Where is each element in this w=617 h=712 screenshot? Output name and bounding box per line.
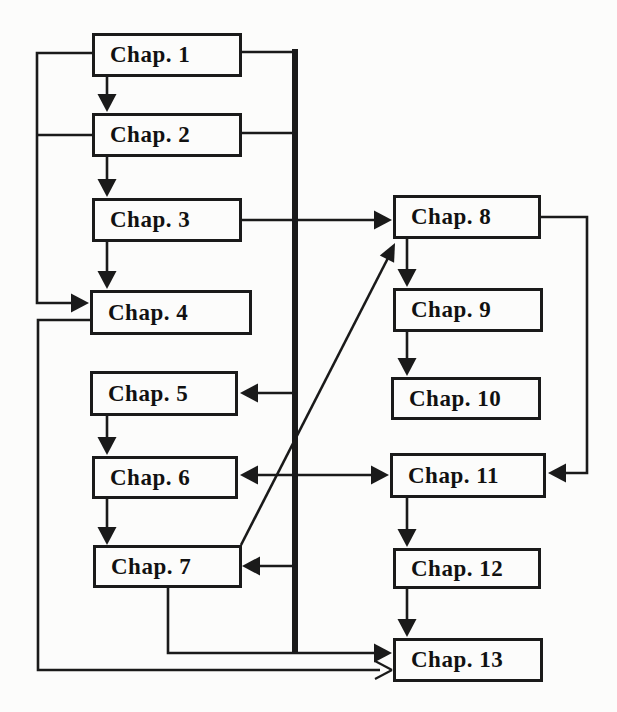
node-chap-10-label: Chap. 10 [409, 386, 501, 412]
node-chap-13: Chap. 13 [393, 638, 543, 682]
node-chap-2-label: Chap. 2 [110, 122, 190, 148]
edges-svg [0, 0, 617, 712]
edge-mainline-to-chap7 [242, 557, 295, 576]
node-chap-1-label: Chap. 1 [110, 42, 190, 68]
edge-chap11-chap12 [398, 498, 417, 547]
edge-chap12-chap13 [398, 589, 417, 637]
edge-chap3-chap4 [98, 242, 117, 289]
node-chap-12-label: Chap. 12 [411, 556, 503, 582]
edge-chap2-chap3 [98, 157, 117, 197]
node-chap-12: Chap. 12 [393, 548, 541, 589]
node-chap-8-label: Chap. 8 [411, 204, 491, 230]
node-chap-13-label: Chap. 13 [411, 647, 503, 673]
edge-chap6-chap7 [98, 499, 117, 545]
node-chap-3: Chap. 3 [92, 198, 242, 242]
node-chap-3-label: Chap. 3 [110, 207, 190, 233]
node-chap-7-label: Chap. 7 [111, 554, 191, 580]
edge-chap5-chap6 [98, 416, 117, 455]
edge-mainline-to-chap5 [240, 384, 295, 403]
edge-chap6-chap11-bidirectional [240, 466, 389, 485]
node-chap-8: Chap. 8 [393, 195, 541, 239]
edge-chap8-chap9 [398, 239, 417, 287]
node-chap-10: Chap. 10 [391, 377, 541, 420]
node-chap-4: Chap. 4 [90, 290, 252, 335]
node-chap-11: Chap. 11 [390, 453, 546, 498]
node-chap-1: Chap. 1 [92, 33, 242, 77]
node-chap-4-label: Chap. 4 [108, 300, 188, 326]
dependency-diagram: Chap. 1 Chap. 2 Chap. 3 Chap. 4 Chap. 5 … [0, 0, 617, 712]
node-chap-9-label: Chap. 9 [411, 297, 491, 323]
edge-chap1-chap2-to-chap4 [37, 53, 92, 313]
node-chap-5-label: Chap. 5 [108, 381, 188, 407]
node-chap-5: Chap. 5 [90, 371, 238, 416]
node-chap-9: Chap. 9 [393, 288, 543, 332]
node-chap-6-label: Chap. 6 [110, 465, 190, 491]
edge-chap9-chap10 [398, 332, 417, 376]
edge-chap7-to-chap13 [168, 588, 392, 663]
node-chap-11-label: Chap. 11 [408, 463, 499, 489]
node-chap-2: Chap. 2 [92, 113, 242, 157]
edge-chap3-to-chap8 [242, 211, 392, 230]
node-chap-7: Chap. 7 [93, 545, 242, 588]
edge-chap8-to-chap11 [541, 217, 587, 483]
edge-chap1-chap2 [98, 77, 117, 112]
node-chap-6: Chap. 6 [92, 456, 238, 499]
